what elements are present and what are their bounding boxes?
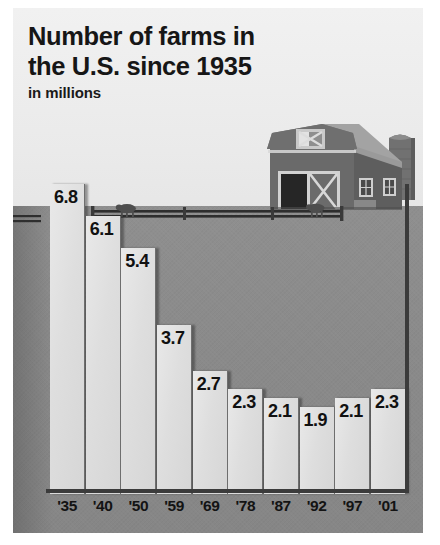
- x-axis-tick-78: '78: [228, 497, 262, 515]
- bar-value-label: 2.1: [268, 401, 292, 422]
- x-axis-tick-59: '59: [157, 497, 191, 515]
- bar-59[interactable]: 3.7: [157, 325, 192, 494]
- bar-35[interactable]: 6.8: [50, 184, 85, 494]
- page-subtitle: in millions: [28, 84, 298, 101]
- poster-panel: Number of farms in the U.S. since 1935 i…: [13, 8, 423, 533]
- page-title-line1: Number of farms in: [28, 22, 298, 52]
- title-block: Number of farms in the U.S. since 1935 i…: [28, 22, 298, 101]
- bar-69[interactable]: 2.7: [193, 371, 228, 494]
- page-title-line2: the U.S. since 1935: [28, 52, 298, 82]
- axis-right-edge: [405, 184, 409, 493]
- x-axis-labels: '35'40'50'59'69'78'87'92'97'01: [50, 497, 405, 523]
- ground-left-shadow: [13, 206, 53, 533]
- x-axis-tick-35: '35: [50, 497, 84, 515]
- x-axis-tick-40: '40: [86, 497, 120, 515]
- bar-87[interactable]: 2.1: [264, 398, 299, 494]
- bar-92[interactable]: 1.9: [300, 407, 335, 494]
- bar-value-label: 5.4: [125, 251, 149, 272]
- bar-value-label: 2.3: [232, 392, 256, 413]
- bar-97[interactable]: 2.1: [335, 398, 370, 494]
- bar-78[interactable]: 2.3: [228, 389, 263, 494]
- hayloft-window: [296, 129, 325, 149]
- bar-chart-plot: 6.86.15.43.72.72.32.11.92.12.3: [50, 184, 405, 494]
- x-axis-tick-97: '97: [335, 497, 369, 515]
- x-axis-tick-50: '50: [121, 497, 155, 515]
- bar-value-label: 6.8: [54, 187, 78, 208]
- x-axis-tick-87: '87: [264, 497, 298, 515]
- bar-value-label: 2.7: [197, 374, 221, 395]
- bar-value-label: 1.9: [304, 410, 328, 431]
- infographic-root: Number of farms in the U.S. since 1935 i…: [0, 0, 440, 545]
- axis-baseline: [46, 489, 409, 493]
- fence-left-segment: [13, 213, 41, 225]
- bar-value-label: 6.1: [90, 219, 114, 240]
- bar-value-label: 3.7: [161, 328, 185, 349]
- bar-value-label: 2.1: [339, 401, 363, 422]
- bar-value-label: 2.3: [375, 392, 399, 413]
- bar-50[interactable]: 5.4: [121, 248, 156, 494]
- x-axis-tick-92: '92: [300, 497, 334, 515]
- x-axis-tick-01: '01: [371, 497, 405, 515]
- x-axis-tick-69: '69: [193, 497, 227, 515]
- bar-01[interactable]: 2.3: [371, 389, 406, 494]
- bar-40[interactable]: 6.1: [86, 216, 121, 494]
